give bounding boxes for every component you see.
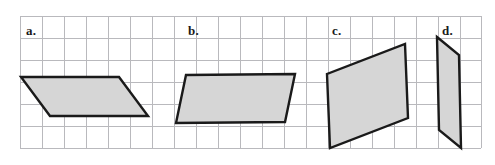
shape-label-c: c. xyxy=(332,24,341,37)
shape-c-parallelogram xyxy=(327,44,408,148)
shape-a-parallelogram xyxy=(21,77,148,116)
shape-label-d: d. xyxy=(442,24,453,37)
parallelogram-figure: a. b. c. d. xyxy=(0,0,495,165)
shapes-layer xyxy=(0,0,495,165)
shape-label-b: b. xyxy=(188,24,199,37)
shape-b-parallelogram xyxy=(176,74,295,123)
shape-label-a: a. xyxy=(26,24,36,37)
shape-d-parallelogram xyxy=(437,37,461,148)
